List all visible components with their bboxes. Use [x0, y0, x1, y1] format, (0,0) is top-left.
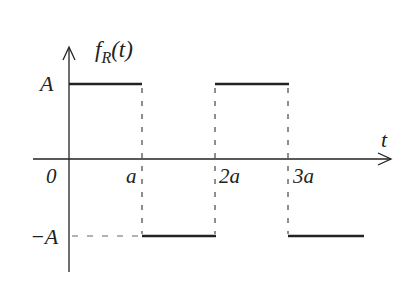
function-label: fR(t): [95, 37, 133, 66]
tick-2a: 2a: [219, 164, 240, 188]
square-wave-diagram: fR(t) A −A t 0 a 2a 3a: [0, 0, 414, 290]
tick-3a: 3a: [292, 164, 314, 188]
y-label-A: A: [38, 71, 54, 96]
tick-a: a: [126, 164, 137, 188]
tick-0: 0: [46, 164, 57, 188]
x-axis-label: t: [381, 127, 388, 152]
y-label-neg-A: −A: [30, 224, 59, 249]
